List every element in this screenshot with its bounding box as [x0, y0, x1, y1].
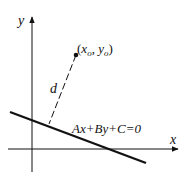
- distance-label: d: [50, 81, 58, 96]
- y-axis-label: y: [16, 13, 25, 28]
- x-axis-label: x: [169, 132, 177, 147]
- line-equation-label: Ax+By+C=0: [71, 121, 141, 136]
- line-ax-by-c: [10, 112, 146, 163]
- diagram-canvas: y x (xo, yo) d Ax+By+C=0: [0, 0, 189, 184]
- point-label: (xo, yo): [77, 41, 113, 58]
